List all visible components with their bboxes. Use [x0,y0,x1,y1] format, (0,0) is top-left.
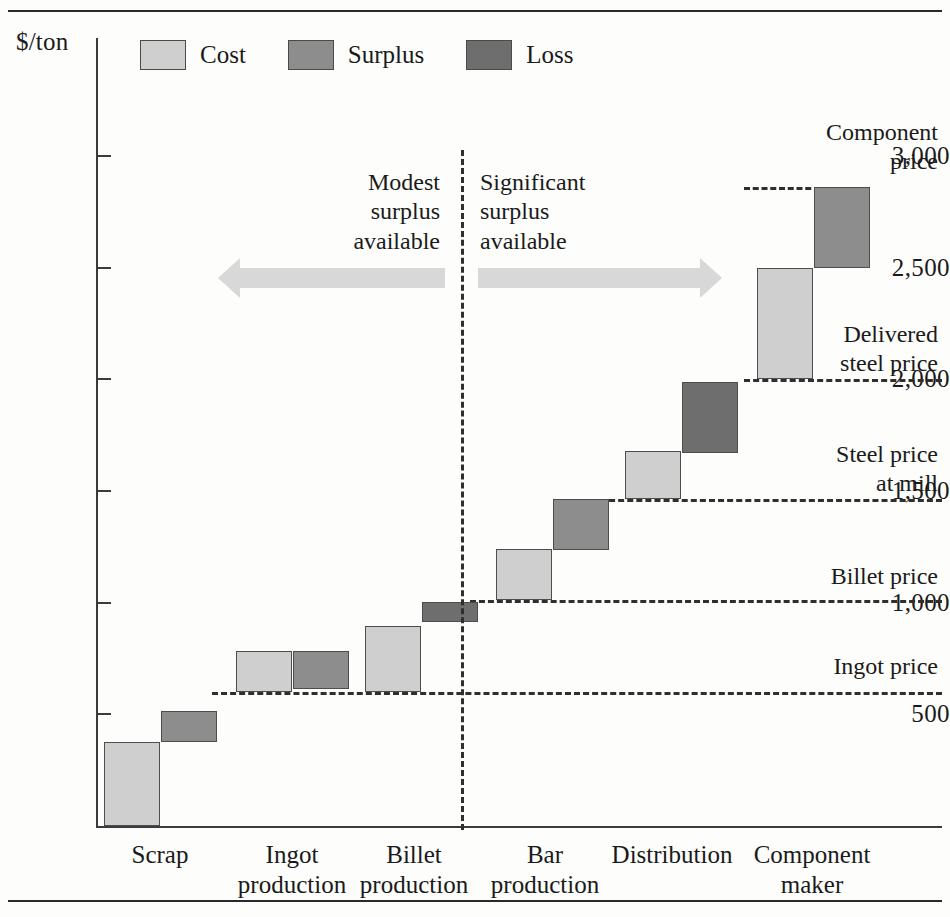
bar-segment-cost[interactable] [757,268,813,380]
x-axis-category-label-line: Scrap [132,840,189,870]
x-axis-category-label: Barproduction [491,840,599,899]
x-axis-category-label-line: production [360,870,468,900]
x-axis-category-label: Distribution [612,840,733,870]
x-axis-category-label-line: Billet [360,840,468,870]
reference-line-label-line: Ingot price [770,652,938,681]
x-axis-category-label-line: production [491,870,599,900]
modest-surplus-arrow-band [240,268,445,288]
x-axis-category-label: Componentmaker [754,840,871,899]
y-axis-tick-label: 2,500 [868,254,950,282]
waterfall-chart-figure: $/ton Cost Surplus Loss 5001,0001,5002,0… [0,0,950,917]
y-axis-tick-mark [98,378,111,380]
y-axis-tick-mark [98,155,111,157]
reference-line [470,600,942,603]
bar-segment-surplus[interactable] [161,711,217,742]
y-axis-tick-label: 500 [868,700,950,728]
significant-surplus-arrow-head [700,258,722,298]
annotation-significant-surplus: Significant surplus available [480,168,680,256]
reference-line [600,499,942,502]
legend-label-cost: Cost [200,41,246,69]
annotation-significant-surplus-line1: Significant [480,168,680,197]
x-axis-category-label-line: Component [754,840,871,870]
bottom-rule [8,900,942,902]
y-axis-tick-mark [98,713,111,715]
annotation-significant-surplus-line2: surplus [480,197,680,226]
reference-line-label-line: Billet price [770,562,938,591]
legend-label-loss: Loss [526,41,573,69]
annotation-modest-surplus-line2: surplus [250,197,440,226]
bar-segment-loss[interactable] [682,382,738,453]
y-axis-title: $/ton [16,28,68,56]
significant-surplus-arrow-band [478,268,700,288]
x-axis-category-label: Ingotproduction [238,840,346,899]
x-axis-category-label-line: Ingot [238,840,346,870]
reference-line-label: Steel priceat mill [770,440,938,499]
bar-segment-loss[interactable] [422,602,478,622]
modest-surplus-arrow-head [218,258,240,298]
bar-segment-surplus[interactable] [553,499,609,550]
x-axis-category-label-line: Distribution [612,840,733,870]
legend-swatch-surplus [288,40,334,70]
legend-swatch-loss [466,40,512,70]
reference-line-label: Billet price [770,562,938,591]
annotation-modest-surplus: Modest surplus available [250,168,440,256]
bar-segment-cost[interactable] [236,651,292,692]
reference-line-label-line: Component [770,118,938,147]
y-axis-tick-mark [98,602,111,604]
y-axis-tick-mark [98,267,111,269]
bar-segment-cost[interactable] [496,549,552,600]
legend-item-cost: Cost [140,40,246,70]
x-axis-category-label-line: production [238,870,346,900]
reference-line-label-line: price [770,147,938,176]
bar-segment-cost[interactable] [625,451,681,499]
reference-line [744,379,942,382]
reference-line-label-line: Steel price [770,440,938,469]
x-axis-category-label-line: maker [754,870,871,900]
bar-segment-cost[interactable] [365,626,421,692]
annotation-significant-surplus-line3: available [480,227,680,256]
legend-label-surplus: Surplus [348,41,424,69]
bar-segment-surplus[interactable] [293,651,349,689]
legend-swatch-cost [140,40,186,70]
reference-line [212,692,942,695]
top-rule [8,10,942,12]
bar-segment-surplus[interactable] [814,187,870,267]
reference-line [744,187,820,190]
x-axis-category-label-line: Bar [491,840,599,870]
y-axis-tick-mark [98,490,111,492]
legend-item-loss: Loss [466,40,573,70]
chart-legend: Cost Surplus Loss [140,40,616,70]
x-axis-category-label: Billetproduction [360,840,468,899]
x-axis-line [96,826,942,828]
bar-segment-cost[interactable] [104,742,160,826]
annotation-modest-surplus-line3: available [250,227,440,256]
x-axis-category-label: Scrap [132,840,189,870]
stage-divider [461,150,464,830]
annotation-modest-surplus-line1: Modest [250,168,440,197]
reference-line-label: Ingot price [770,652,938,681]
reference-line-label-line: at mill [770,469,938,498]
legend-item-surplus: Surplus [288,40,424,70]
reference-line-label: Componentprice [770,118,938,177]
